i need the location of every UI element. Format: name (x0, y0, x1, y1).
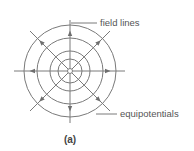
equipotentials-label: equipotentials (120, 108, 179, 119)
radial-field-diagram: field lines equipotentials (a) (0, 0, 194, 151)
field-lines-label: field lines (100, 17, 140, 28)
arrow-up-right-icon (94, 42, 99, 47)
field-line-down-right (72, 73, 110, 111)
center-charge (68, 69, 73, 74)
field-line-up-right (72, 31, 110, 69)
figure-caption: (a) (64, 134, 76, 145)
arrow-up-left-icon (41, 42, 46, 47)
arrow-down-right-icon (94, 95, 99, 100)
field-line-down-left (30, 73, 68, 111)
arrow-down-left-icon (41, 95, 46, 100)
leader-lines (71, 23, 117, 114)
field-line-up-left (30, 31, 68, 69)
